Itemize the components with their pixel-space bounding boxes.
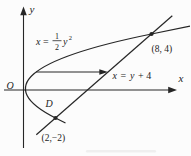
parabola-equation-label: x = 1 2 y 2	[35, 32, 72, 52]
scan-artifact	[86, 150, 156, 152]
horizontal-element-arrow	[36, 69, 108, 75]
point-upper-label: (8, 4)	[152, 44, 173, 55]
x-axis-label: x	[178, 72, 184, 84]
y-axis-arrowhead-icon	[20, 7, 27, 16]
point-lower-name-label: D	[45, 98, 54, 109]
parabola-eq-exponent: 2	[69, 34, 72, 41]
x-axis-arrowhead-icon	[168, 87, 177, 93]
line-eq-equals: =	[120, 70, 126, 81]
origin-label: O	[7, 80, 14, 91]
y-axis-label: y	[29, 3, 35, 15]
line-eq-y: y	[129, 70, 135, 81]
line-equation-label: x = y + 4	[112, 70, 152, 81]
parabola-eq-denominator: 2	[55, 43, 59, 52]
parabola-eq-y: y	[62, 36, 68, 47]
point-upper-dot	[149, 32, 153, 36]
figure-canvas: y x O x = 1 2 y 2 x = y + 4 (8, 4) D (2,…	[0, 0, 191, 156]
line-eq-x: x	[112, 70, 118, 81]
line-eq-plus-four: + 4	[138, 70, 151, 81]
parabola-eq-numerator: 1	[55, 32, 59, 41]
parabola-eq-x: x	[35, 36, 41, 47]
parabola-eq-equals: =	[43, 36, 49, 47]
point-lower-coords-label: (2,−2)	[42, 133, 66, 144]
point-lower-dot	[53, 116, 57, 120]
